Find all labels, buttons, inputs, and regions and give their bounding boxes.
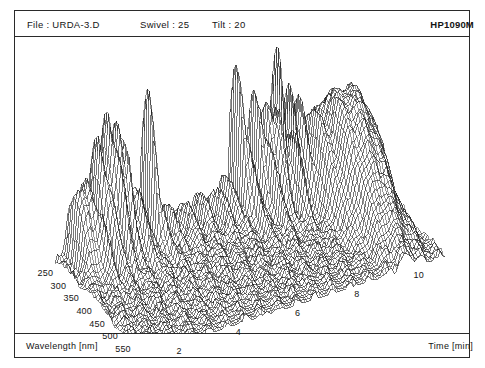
tilt-label: Tilt : 20 [212,19,246,30]
wavelength-tick-400: 400 [76,306,92,316]
time-tick-6: 6 [295,308,300,318]
time-axis-label: Time [min] [428,341,473,352]
swivel-label: Swivel : 25 [140,19,189,30]
wavelength-axis-label: Wavelength [nm] [26,341,98,352]
chromatogram-window: File : URDA-3.D Swivel : 25 Tilt : 20 HP… [0,0,485,368]
surface-plot-canvas: 250300350400450500550246810 [15,37,469,333]
instrument-model-label: HP1090M [430,19,474,30]
time-tick-8: 8 [354,289,359,299]
wavelength-tick-500: 500 [102,331,118,341]
wavelength-tick-550: 550 [115,344,131,354]
time-tick-2: 2 [177,346,182,356]
wavelength-tick-300: 300 [50,281,66,291]
footer-divider [15,333,469,334]
wavelength-tick-350: 350 [63,293,79,303]
wavelength-tick-450: 450 [89,319,105,329]
wavelength-tick-250: 250 [38,268,54,278]
time-tick-4: 4 [236,327,241,337]
time-tick-10: 10 [413,270,423,280]
file-label: File : URDA-3.D [27,19,100,30]
